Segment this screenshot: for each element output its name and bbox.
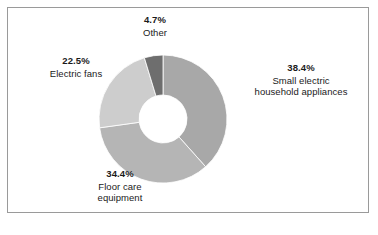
slice-percent-other: 4.7% xyxy=(111,14,199,26)
slice-callout-other: 4.7% Other xyxy=(111,14,199,38)
slice-label-small-electric-household-appliances: Small electric household appliances xyxy=(228,75,374,98)
slice-callout-small-electric-household-appliances: 38.4% Small electric household appliance… xyxy=(228,62,374,98)
slice-callout-floor-care-equipment: 34.4% Floor care equipment xyxy=(62,168,178,204)
slice-label-floor-care-equipment: Floor care equipment xyxy=(62,181,178,204)
slice-percent-electric-fans: 22.5% xyxy=(18,55,134,67)
chart-figure: 4.7% Other 38.4% Small electric househol… xyxy=(0,0,378,235)
slice-callout-electric-fans: 22.5% Electric fans xyxy=(18,55,134,79)
slice-label-other: Other xyxy=(111,27,199,39)
slice-percent-small-electric-household-appliances: 38.4% xyxy=(228,62,374,74)
slice-percent-floor-care-equipment: 34.4% xyxy=(62,168,178,180)
slice-label-electric-fans: Electric fans xyxy=(18,68,134,80)
